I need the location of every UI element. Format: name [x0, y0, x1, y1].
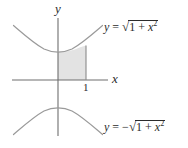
- upper-eq-radicand-lead: 1 +: [129, 20, 148, 34]
- y-axis-label: y: [55, 2, 61, 15]
- upper-eq-lhs: y: [104, 21, 109, 33]
- shaded-region: [58, 46, 86, 81]
- x-axis-label: x: [112, 72, 118, 85]
- upper-eq-exponent: 2: [153, 19, 157, 28]
- upper-curve-equation-label: y = √ 1 + x2: [104, 20, 158, 33]
- radical-sign-icon: √: [122, 20, 129, 33]
- upper-eq-radicand: 1 + x2: [128, 20, 158, 33]
- lower-curve-equation-label: y = − √ 1 + x2: [104, 120, 165, 133]
- lower-eq-equals: =: [112, 121, 119, 133]
- lower-eq-minus-sign: −: [122, 121, 129, 133]
- lower-eq-radical: √ 1 + x2: [129, 120, 165, 133]
- upper-eq-radical: √ 1 + x2: [122, 20, 158, 33]
- lower-eq-radicand: 1 + x2: [135, 120, 165, 133]
- lower-eq-exponent: 2: [160, 119, 164, 128]
- lower-eq-lhs: y: [104, 121, 109, 133]
- radical-sign-icon: √: [129, 120, 136, 133]
- upper-eq-equals: =: [112, 21, 119, 33]
- lower-eq-radicand-lead: 1 +: [136, 120, 155, 134]
- hyperbola-figure: y x 1 y = √ 1 + x2 y = − √ 1 + x2: [0, 0, 188, 148]
- x-tick-label-1: 1: [83, 82, 89, 93]
